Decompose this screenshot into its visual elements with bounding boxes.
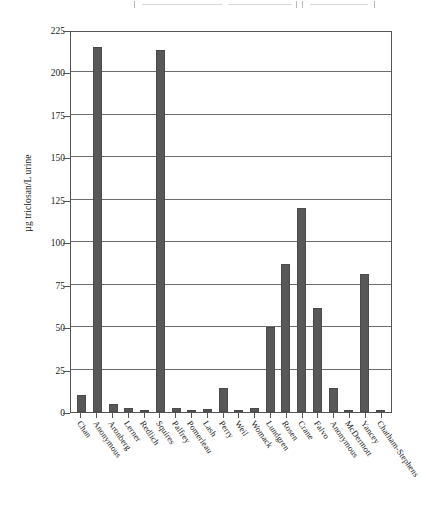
x-label-slot: Rosen bbox=[278, 419, 294, 518]
x-tick-slot bbox=[342, 413, 358, 418]
bar[interactable] bbox=[140, 410, 149, 412]
bar[interactable] bbox=[313, 308, 322, 412]
x-label-slot: Perry bbox=[215, 419, 231, 518]
x-tick-slot bbox=[120, 413, 136, 418]
y-tick-mark-200 bbox=[63, 73, 70, 74]
bar[interactable] bbox=[203, 409, 212, 412]
bar-slot bbox=[105, 32, 121, 412]
y-tick-label-50: 50 bbox=[25, 323, 65, 333]
x-tick-slot bbox=[152, 413, 168, 418]
x-tick-slot bbox=[310, 413, 326, 418]
bar-slot bbox=[278, 32, 294, 412]
x-tick-mark bbox=[286, 413, 287, 418]
bar[interactable] bbox=[77, 395, 86, 412]
x-label-slot: Aronberg bbox=[105, 419, 121, 518]
x-tick-mark bbox=[238, 413, 239, 418]
y-tick-label-0: 0 bbox=[25, 408, 65, 418]
x-label-slot: Lundgren bbox=[263, 419, 279, 518]
bar[interactable] bbox=[156, 50, 165, 412]
y-tick-label-75: 75 bbox=[25, 281, 65, 291]
bar-slot bbox=[372, 32, 388, 412]
bar[interactable] bbox=[329, 388, 338, 412]
x-tick-slot bbox=[136, 413, 152, 418]
x-tick-slot bbox=[199, 413, 215, 418]
y-axis-title: µg triclosan/L urine bbox=[23, 103, 33, 283]
x-tick-slot bbox=[263, 413, 279, 418]
x-tick-mark bbox=[349, 413, 350, 418]
x-label-slot: Squires bbox=[152, 419, 168, 518]
x-tick-mark bbox=[112, 413, 113, 418]
x-label-slot: Palfrey bbox=[168, 419, 184, 518]
x-label-slot: Falvo bbox=[310, 419, 326, 518]
x-label-slot: Chatham-Stephens bbox=[373, 419, 389, 518]
x-axis-labels: ChanAnonymousAronbergLernerRedlichSquire… bbox=[70, 419, 392, 518]
bar[interactable] bbox=[250, 408, 259, 412]
x-tick-mark bbox=[191, 413, 192, 418]
x-label-slot: Pomerleau bbox=[184, 419, 200, 518]
x-axis-ticks bbox=[70, 413, 392, 418]
x-tick-mark bbox=[333, 413, 334, 418]
x-tick-mark bbox=[254, 413, 255, 418]
bar[interactable] bbox=[172, 408, 181, 412]
x-tick-slot bbox=[105, 413, 121, 418]
bar-slot bbox=[231, 32, 247, 412]
bar-slot bbox=[153, 32, 169, 412]
bar[interactable] bbox=[234, 410, 243, 412]
bar-series bbox=[71, 32, 391, 412]
y-tick-label-125: 125 bbox=[25, 196, 65, 206]
plot-area bbox=[70, 31, 392, 413]
x-label-slot: Crane bbox=[294, 419, 310, 518]
bar[interactable] bbox=[344, 410, 353, 412]
y-tick-mark-50 bbox=[63, 328, 70, 329]
y-tick-label-100: 100 bbox=[25, 238, 65, 248]
bar-slot bbox=[247, 32, 263, 412]
x-tick-slot bbox=[247, 413, 263, 418]
x-tick-slot bbox=[357, 413, 373, 418]
y-tick-mark-100 bbox=[63, 243, 70, 244]
x-tick-mark bbox=[381, 413, 382, 418]
x-tick-slot bbox=[326, 413, 342, 418]
x-label-slot: Lash bbox=[199, 419, 215, 518]
y-tick-mark-225 bbox=[63, 31, 70, 32]
bar-slot bbox=[121, 32, 137, 412]
bar[interactable] bbox=[219, 388, 228, 412]
x-tick-mark bbox=[207, 413, 208, 418]
x-tick-slot bbox=[215, 413, 231, 418]
x-tick-label: Chatham-Stephens bbox=[375, 419, 421, 479]
bar-slot bbox=[325, 32, 341, 412]
bar-slot bbox=[200, 32, 216, 412]
x-tick-mark bbox=[175, 413, 176, 418]
bar-slot bbox=[215, 32, 231, 412]
y-tick-mark-25 bbox=[63, 371, 70, 372]
bar[interactable] bbox=[297, 208, 306, 412]
bar[interactable] bbox=[93, 47, 102, 412]
bar[interactable] bbox=[281, 264, 290, 412]
bar[interactable] bbox=[109, 404, 118, 412]
y-tick-mark-150 bbox=[63, 158, 70, 159]
x-tick-slot bbox=[168, 413, 184, 418]
x-label-slot: Womack bbox=[247, 419, 263, 518]
bar[interactable] bbox=[266, 327, 275, 412]
x-label-slot: McDermott bbox=[342, 419, 358, 518]
y-tick-label-150: 150 bbox=[25, 153, 65, 163]
x-label-slot: Weil bbox=[231, 419, 247, 518]
x-label-slot: Yancey bbox=[357, 419, 373, 518]
x-tick-mark bbox=[128, 413, 129, 418]
x-tick-slot bbox=[373, 413, 389, 418]
x-label-slot: Redlich bbox=[136, 419, 152, 518]
x-tick-slot bbox=[73, 413, 89, 418]
x-tick-mark bbox=[270, 413, 271, 418]
y-tick-mark-0 bbox=[63, 413, 70, 414]
x-tick-mark bbox=[80, 413, 81, 418]
x-tick-mark bbox=[223, 413, 224, 418]
x-tick-mark bbox=[365, 413, 366, 418]
bar[interactable] bbox=[124, 408, 133, 412]
bar[interactable] bbox=[376, 410, 385, 412]
x-tick-slot bbox=[184, 413, 200, 418]
bar-slot bbox=[74, 32, 90, 412]
bar[interactable] bbox=[187, 410, 196, 412]
y-tick-label-25: 25 bbox=[25, 366, 65, 376]
y-tick-label-200: 200 bbox=[25, 68, 65, 78]
bar[interactable] bbox=[360, 274, 369, 412]
